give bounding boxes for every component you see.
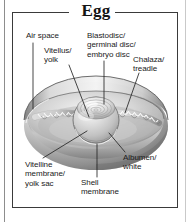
label-vitellus-yolk: Vitellus/ yolk: [44, 46, 71, 65]
yolk-sphere: [73, 97, 119, 144]
label-blastodisc: Blastodisc/ germinal disc/ embryo disc: [87, 31, 136, 59]
leader-albumen: [109, 133, 125, 152]
leader-chalaza: [125, 73, 139, 113]
page-rule-right: [185, 0, 186, 222]
label-air-space: Air space: [26, 31, 59, 40]
page-rule-left: [4, 0, 5, 222]
egg-interior-albumen: [28, 91, 164, 159]
label-chalaza: Chalaza/ treadle: [133, 55, 164, 74]
page-title: Egg: [13, 2, 179, 19]
chalaza-cords: [35, 111, 160, 124]
egg-figure: Egg: [0, 0, 189, 222]
figure-border-box: Egg: [12, 12, 178, 208]
leader-vitelline: [43, 131, 87, 158]
blastodisc-cap: [77, 97, 115, 119]
label-shell-membrane: Shell membrane: [81, 178, 119, 197]
shell-cut-rim: [24, 76, 168, 123]
label-vitelline-membrane: Vitelline membrane/ yolk sac: [25, 160, 65, 188]
label-albumen-white: Albumen/ white: [123, 153, 156, 172]
leader-vitellus: [69, 65, 89, 117]
